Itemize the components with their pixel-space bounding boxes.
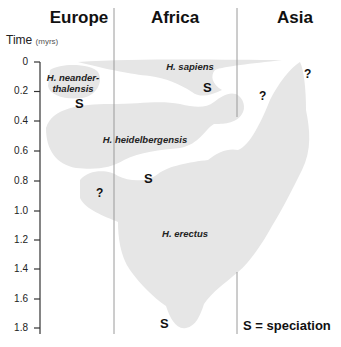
unknown-mark-asia-1: ?	[259, 89, 266, 103]
region-europe: Europe	[44, 8, 114, 28]
tick-label: 0	[4, 56, 28, 67]
time-axis	[34, 62, 40, 334]
lineage-blobs	[46, 60, 309, 329]
legend: S = speciation	[243, 318, 331, 333]
label-neanderthalensis: H. neander- thalensis	[44, 72, 102, 94]
region-africa: Africa	[140, 8, 210, 28]
axis-title: Time (myrs)	[6, 33, 58, 47]
speciation-mark-erectus: S	[160, 316, 169, 331]
tick-label: 0.8	[4, 175, 28, 186]
axis-unit: (myrs)	[36, 37, 59, 46]
unknown-mark-europe: ?	[96, 186, 103, 200]
unknown-mark-asia-2: ?	[304, 67, 311, 81]
region-asia: Asia	[260, 8, 330, 28]
tick-label: 0.4	[4, 115, 28, 126]
label-erectus: H. erectus	[150, 228, 220, 239]
speciation-mark-heidelbergensis: S	[144, 171, 153, 186]
tick-label: 1.8	[4, 322, 28, 333]
tick-label: 0.2	[4, 85, 28, 96]
tick-label: 1.4	[4, 263, 28, 274]
speciation-mark-sapiens: S	[203, 80, 212, 95]
label-heidelbergensis: H. heidelbergensis	[90, 134, 200, 145]
tick-label: 0.6	[4, 145, 28, 156]
speciation-mark-neanderthalensis: S	[75, 96, 84, 111]
diagram-canvas	[0, 0, 341, 347]
tick-label: 1.0	[4, 205, 28, 216]
tick-label: 1.6	[4, 293, 28, 304]
label-sapiens: H. sapiens	[155, 61, 225, 72]
tick-label: 1.2	[4, 234, 28, 245]
